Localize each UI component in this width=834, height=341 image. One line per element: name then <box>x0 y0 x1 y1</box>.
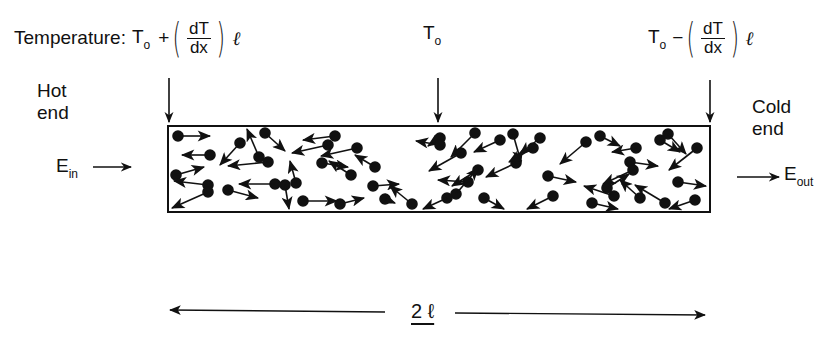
temperature-pointer-arrows <box>169 78 710 122</box>
length-left-arrow-icon <box>170 310 385 312</box>
diagram-graphics <box>0 0 834 341</box>
length-right-arrow-icon <box>455 313 705 315</box>
